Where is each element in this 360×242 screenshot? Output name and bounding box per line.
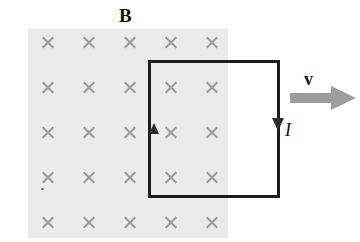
field-into-page-x-icon bbox=[123, 170, 138, 185]
field-into-page-x-icon bbox=[164, 35, 179, 50]
field-into-page-x-icon bbox=[41, 35, 56, 50]
velocity-arrow-head-icon bbox=[331, 86, 356, 110]
field-into-page-x-icon bbox=[82, 35, 97, 50]
field-into-page-x-icon bbox=[164, 215, 179, 230]
field-into-page-x-icon bbox=[41, 125, 56, 140]
field-into-page-x-icon bbox=[82, 80, 97, 95]
velocity-arrow-shaft bbox=[290, 93, 333, 103]
field-into-page-x-icon bbox=[205, 215, 220, 230]
velocity-label: v bbox=[304, 70, 313, 88]
current-arrow-right-icon bbox=[272, 118, 284, 131]
current-arrow-left-icon bbox=[149, 123, 159, 134]
current-label: I bbox=[285, 121, 291, 139]
field-into-page-x-icon bbox=[123, 35, 138, 50]
field-into-page-x-icon bbox=[41, 215, 56, 230]
physics-diagram-canvas: B v I bbox=[0, 0, 360, 242]
field-into-page-x-icon bbox=[82, 170, 97, 185]
field-into-page-x-icon bbox=[123, 125, 138, 140]
field-into-page-x-icon bbox=[205, 35, 220, 50]
field-into-page-x-icon bbox=[123, 215, 138, 230]
scan-artifact-speck bbox=[41, 188, 44, 190]
field-into-page-x-icon bbox=[82, 125, 97, 140]
field-into-page-x-icon bbox=[41, 170, 56, 185]
field-into-page-x-icon bbox=[41, 80, 56, 95]
conducting-loop bbox=[148, 60, 280, 198]
field-into-page-x-icon bbox=[123, 80, 138, 95]
field-into-page-x-icon bbox=[82, 215, 97, 230]
field-label: B bbox=[119, 6, 132, 25]
